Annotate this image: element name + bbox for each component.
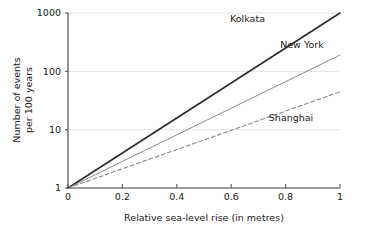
- y-tick-label-1: 1: [55, 182, 61, 193]
- series-label-new-york: New York: [280, 39, 324, 50]
- x-tick-label-0.2: 0.2: [115, 191, 130, 202]
- y-tick-label-1000: 1000: [37, 7, 61, 18]
- y-axis-title-line-1: Number of events: [11, 57, 22, 142]
- x-tick-label-0.8: 0.8: [278, 191, 293, 202]
- series-label-shanghai: Shanghai: [269, 112, 313, 123]
- x-tick-label-0.6: 0.6: [224, 191, 239, 202]
- y-tick-label-100: 100: [43, 66, 61, 77]
- x-tick-label-0.4: 0.4: [169, 191, 184, 202]
- x-tick-label-1: 1: [337, 191, 343, 202]
- series-label-kolkata: Kolkata: [230, 13, 265, 24]
- sea-level-rise-line-chart: 00.20.40.60.81 1101001000 KolkataNew Yor…: [0, 0, 367, 228]
- x-axis-title: Relative sea-level rise (in metres): [124, 212, 284, 223]
- y-axis-title-line-2: per 100 years: [23, 67, 34, 133]
- x-tick-label-0: 0: [65, 191, 71, 202]
- y-tick-label-10: 10: [49, 124, 61, 135]
- chart-figure: 00.20.40.60.81 1101001000 KolkataNew Yor…: [0, 0, 367, 228]
